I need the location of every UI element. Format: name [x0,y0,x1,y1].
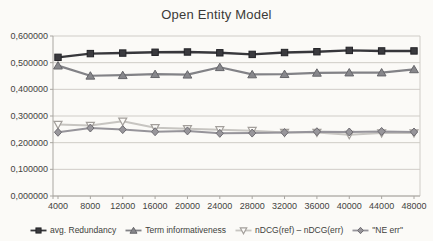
diamond-marker-icon [410,128,417,136]
x-tick-label: 28000 [240,201,265,211]
square-marker-icon [281,49,287,55]
legend-item-label: nDCG(ref) – nDCG(err) [255,225,343,235]
legend-item: avg. Redundancy [30,225,116,235]
x-tick-label: 12000 [110,201,135,211]
y-tick-label: 0,000000 [10,191,48,201]
series-line-1 [58,66,414,76]
y-tick-label: 0,500000 [10,58,48,68]
plot-area: 0,0000000,1000000,2000000,3000000,400000… [0,0,433,220]
diamond-marker-icon [54,128,61,136]
x-tick-label: 8000 [80,201,100,211]
diamond-marker-icon [119,126,126,134]
square-marker-icon [184,49,190,55]
square-marker-icon [314,49,320,55]
square-marker-icon [249,51,255,57]
legend-item-label: avg. Redundancy [50,225,116,235]
square-marker-icon [55,54,61,60]
legend-item: "NE err" [352,225,403,235]
chart: Open Entity Model 0,0000000,1000000,2000… [0,0,433,241]
y-tick-label: 0,100000 [10,164,48,174]
square-marker-icon [120,50,126,56]
x-tick-label: 32000 [272,201,297,211]
legend-marker-icon [30,226,47,235]
square-marker-icon [411,48,417,54]
legend-item: nDCG(ref) – nDCG(err) [235,225,343,235]
legend-item-label: Term informativeness [145,225,226,235]
x-tick-label: 20000 [175,201,200,211]
diamond-marker-icon [378,127,385,135]
square-marker-icon [346,47,352,53]
legend: avg. RedundancyTerm informativenessnDCG(… [0,225,433,235]
legend-item-label: "NE err" [372,225,403,235]
legend-marker-icon [235,226,252,235]
triangle-down-marker-icon [240,227,246,233]
x-tick-label: 48000 [401,201,426,211]
legend-marker-icon [352,226,369,235]
x-tick-label: 24000 [207,201,232,211]
x-tick-label: 40000 [337,201,362,211]
square-marker-icon [36,227,41,232]
series-line-0 [58,50,414,57]
legend-marker-icon [125,226,142,235]
diamond-marker-icon [358,227,364,233]
diamond-marker-icon [151,128,158,136]
square-marker-icon [378,48,384,54]
square-marker-icon [217,50,223,56]
x-tick-label: 36000 [304,201,329,211]
y-tick-label: 0,200000 [10,138,48,148]
y-tick-label: 0,600000 [10,31,48,41]
x-tick-label: 16000 [143,201,168,211]
x-tick-label: 44000 [369,201,394,211]
x-tick-label: 4000 [48,201,68,211]
square-marker-icon [152,49,158,55]
y-tick-label: 0,400000 [10,84,48,94]
square-marker-icon [87,50,93,56]
legend-item: Term informativeness [125,225,226,235]
y-tick-label: 0,300000 [10,111,48,121]
